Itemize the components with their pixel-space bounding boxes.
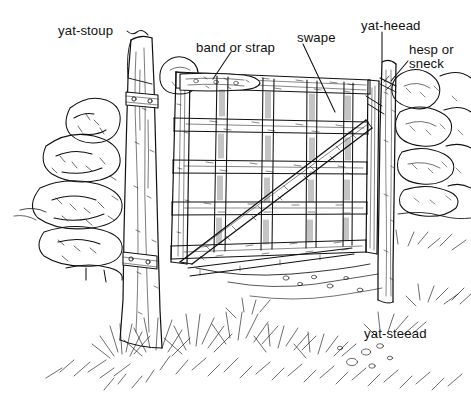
yat-heead-post [366,60,396,303]
label-band-or-strap: band or strap [196,41,275,56]
yat-stoup-post [120,36,162,348]
leader-yat-stoup [127,31,148,35]
gate-frame [171,72,379,276]
left-stone-wall [14,98,122,282]
band-or-strap-fitting [180,73,260,91]
gate-illustration [0,0,471,404]
label-yat-steead: yat-steead [364,327,427,342]
gate-stiles [214,76,353,252]
label-yat-stoup: yat-stoup [58,24,113,39]
label-yat-heead: yat-heead [361,19,421,34]
right-stone-wall [392,69,471,218]
label-sneck: sneck [409,57,444,72]
illustration-canvas: yat-stoup band or strap swape yat-heead … [0,0,471,404]
label-swape: swape [297,31,336,46]
leader-hesp-sneck [391,61,408,81]
ground-and-grass [46,230,471,390]
